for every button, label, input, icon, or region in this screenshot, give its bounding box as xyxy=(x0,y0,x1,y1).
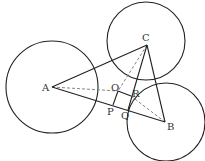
circles-group xyxy=(6,2,205,161)
point-label-q: Q xyxy=(121,110,129,121)
segment-op xyxy=(113,91,118,105)
point-label-p: P xyxy=(107,106,114,117)
point-label-b: B xyxy=(167,121,174,132)
point-label-o: O xyxy=(111,82,119,93)
segment-or xyxy=(118,91,131,96)
point-label-a: A xyxy=(41,82,50,93)
point-label-c: C xyxy=(142,32,150,43)
side-ac xyxy=(52,45,147,87)
geometry-diagram: ABCORPQ xyxy=(0,0,205,161)
point-label-r: R xyxy=(132,88,140,99)
